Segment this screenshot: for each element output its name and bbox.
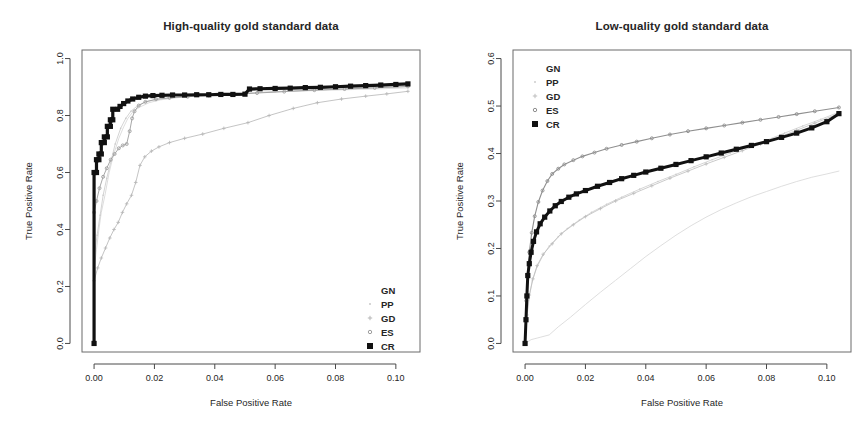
marker-square (523, 317, 528, 322)
marker-square (170, 92, 175, 97)
marker-dot (96, 234, 98, 236)
series-GD (523, 112, 840, 345)
marker-square (607, 180, 612, 185)
marker-square (242, 92, 247, 97)
marker-square (230, 92, 235, 97)
x-axis: 0.000.020.040.060.080.10 (516, 364, 835, 383)
x-tick-label: 0.02 (577, 373, 595, 383)
x-axis-title: False Positive Rate (641, 397, 723, 408)
marker-dot (729, 152, 731, 154)
x-tick-label: 0.00 (516, 373, 534, 383)
marker-square (348, 84, 353, 89)
marker-square (363, 83, 368, 88)
marker-square (658, 166, 663, 171)
marker-plus (406, 90, 410, 94)
marker-dot (99, 214, 101, 216)
marker-plus (316, 101, 320, 105)
marker-dot (675, 174, 677, 176)
marker-dot (102, 195, 104, 197)
marker-square (531, 239, 536, 244)
marker-square (333, 84, 338, 89)
marker-dot (621, 196, 623, 198)
series-line-ES (94, 86, 408, 343)
x-tick-label: 0.00 (85, 373, 103, 383)
y-tick-label: 0.0 (55, 337, 65, 350)
series-line-CR (94, 84, 408, 344)
marker-square (99, 151, 104, 156)
marker-square (247, 86, 252, 91)
marker-square (559, 199, 564, 204)
marker-plus (340, 97, 344, 101)
marker-square (318, 85, 323, 90)
legend-label-ES: ES (381, 327, 394, 338)
marker-square (704, 154, 709, 159)
marker-plus (201, 132, 205, 136)
marker-square (809, 125, 814, 130)
marker-square (194, 92, 199, 97)
x-tick-label: 0.08 (327, 373, 345, 383)
legend-label-GD: GD (381, 313, 395, 324)
marker-square (159, 93, 164, 98)
chart-canvas-right: Low-quality gold standard data0.000.020.… (431, 0, 862, 427)
y-tick-label: 0.2 (486, 242, 496, 255)
x-tick-label: 0.10 (818, 373, 836, 383)
chart-legend: GNPPGDESCR (367, 285, 395, 352)
marker-square (583, 188, 588, 193)
marker-square (405, 81, 410, 86)
marker-plus (168, 141, 172, 145)
marker-square (538, 221, 543, 226)
marker-square (553, 203, 558, 208)
marker-plus (121, 211, 125, 215)
marker-plus (246, 121, 250, 125)
legend-marker-ES (533, 108, 536, 111)
legend-label-GD: GD (546, 91, 560, 102)
series-PP (93, 86, 408, 345)
panel-low-quality: Low-quality gold standard data0.000.020.… (431, 0, 862, 427)
marker-square (547, 208, 552, 213)
marker-plus (130, 194, 134, 198)
chart-title: Low-quality gold standard data (596, 20, 769, 32)
series-line-CR (525, 114, 839, 344)
marker-square (393, 82, 398, 87)
y-tick-label: 0.3 (486, 195, 496, 208)
marker-dot (820, 119, 822, 121)
marker-dot (657, 181, 659, 183)
y-axis: 0.00.20.40.60.81.0 (55, 52, 70, 349)
legend-label-GN: GN (381, 285, 395, 296)
marker-square (150, 93, 155, 98)
legend-marker-GD (533, 94, 537, 98)
marker-square (378, 82, 383, 87)
marker-square (673, 162, 678, 167)
marker-square (764, 139, 769, 144)
plot-frame (82, 50, 420, 352)
marker-square (288, 86, 293, 91)
marker-plus (100, 256, 104, 260)
marker-square (779, 135, 784, 140)
marker-square (96, 157, 101, 162)
series-PP (524, 111, 839, 344)
marker-square (529, 250, 534, 255)
legend-marker-GD (368, 316, 372, 320)
marker-square (542, 215, 547, 220)
marker-square (94, 170, 99, 175)
marker-square (91, 341, 96, 346)
y-tick-label: 0.4 (55, 223, 65, 236)
y-tick-label: 0.2 (55, 280, 65, 293)
marker-dot (125, 118, 127, 120)
marker-square (527, 261, 532, 266)
marker-square (273, 86, 278, 91)
marker-square (574, 191, 579, 196)
x-tick-label: 0.10 (387, 373, 405, 383)
series-CR (91, 81, 410, 346)
x-tick-label: 0.08 (758, 373, 776, 383)
marker-square (303, 85, 308, 90)
marker-plus (96, 266, 100, 270)
series-line-PP (94, 86, 408, 343)
panel-high-quality: High-quality gold standard data0.000.020… (0, 0, 431, 427)
chart-legend: GNPPGDESCR (532, 63, 560, 130)
chart-canvas-left: High-quality gold standard data0.000.020… (0, 0, 431, 427)
marker-plus (108, 236, 112, 240)
marker-square (734, 147, 739, 152)
marker-square (522, 341, 527, 346)
marker-square (110, 117, 115, 122)
